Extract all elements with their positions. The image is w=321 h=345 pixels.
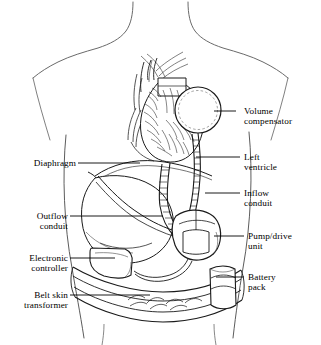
label-outflow-conduit: Outflow conduit — [8, 211, 68, 232]
belt-transformer-coils — [128, 296, 202, 310]
neck-left-contour — [33, 2, 133, 78]
label-volume-compensator: Volume compensator — [244, 106, 292, 127]
electronic-controller-group — [90, 248, 132, 278]
lower-body-contour — [102, 324, 216, 345]
neck-right-contour — [188, 2, 288, 78]
label-inflow-conduit: Inflow conduit — [244, 188, 272, 209]
label-electronic-controller: Electronic controller — [0, 253, 68, 274]
torso-left-contour — [33, 78, 50, 140]
label-diaphragm: Diaphragm — [8, 158, 76, 168]
volume-compensator-outer — [175, 87, 221, 133]
label-left-ventricle: Left ventricle — [244, 152, 277, 173]
diaphragm-left-attach — [88, 172, 96, 178]
drive-cable-group — [134, 259, 192, 281]
rib-arc-1 — [128, 108, 136, 140]
label-battery-pack: Battery pack — [248, 272, 276, 293]
label-pump-drive-unit: Pump/drive unit — [248, 231, 292, 252]
volume-compensator-group — [175, 87, 221, 133]
electronic-controller-body — [90, 248, 132, 278]
label-belt-skin-transformer: Belt skin transformer — [0, 290, 68, 311]
battery-pack-group — [210, 266, 236, 309]
descending-vessel — [141, 62, 144, 92]
rib-left-1 — [134, 74, 137, 110]
pump-drive-unit-group — [172, 210, 220, 260]
figure-root: Volume compensator Left ventricle Inflow… — [0, 0, 321, 345]
drive-cable-b — [135, 261, 192, 281]
pump-drive-inner-panel — [183, 230, 209, 255]
